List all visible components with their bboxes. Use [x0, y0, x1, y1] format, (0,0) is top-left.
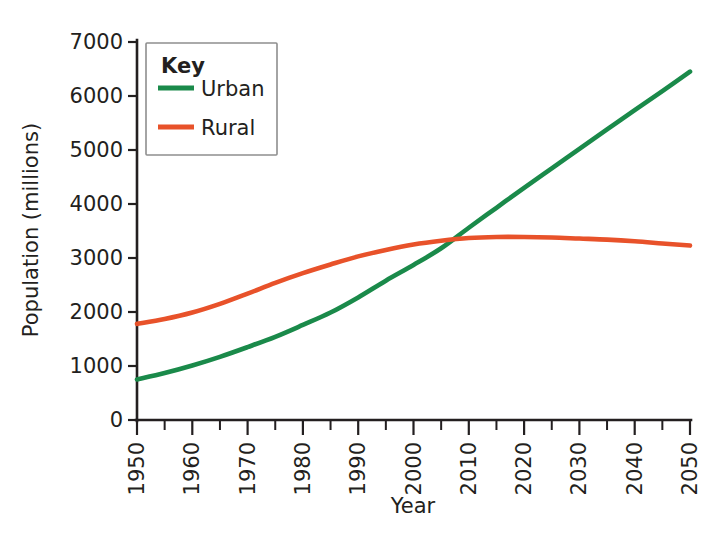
y-tick-marks: [128, 42, 137, 420]
y-tick-label-1000: 1000: [70, 354, 123, 378]
legend-label-rural: Rural: [201, 116, 255, 140]
x-tick-label-1960: 1960: [180, 442, 204, 495]
x-tick-label-2010: 2010: [457, 442, 481, 495]
y-tick-labels: 01000200030004000500060007000: [70, 30, 123, 432]
x-tick-label-2030: 2030: [567, 442, 591, 495]
legend: Key Urban Rural: [146, 43, 277, 155]
x-tick-label-2040: 2040: [623, 442, 647, 495]
y-tick-label-7000: 7000: [70, 30, 123, 54]
x-tick-label-2020: 2020: [512, 442, 536, 495]
legend-label-urban: Urban: [201, 77, 265, 101]
y-tick-label-2000: 2000: [70, 300, 123, 324]
legend-title: Key: [161, 54, 205, 78]
x-axis-title: Year: [390, 494, 436, 518]
y-tick-label-5000: 5000: [70, 138, 123, 162]
x-tick-label-2050: 2050: [678, 442, 702, 495]
y-tick-label-4000: 4000: [70, 192, 123, 216]
line-chart: 01000200030004000500060007000 Population…: [0, 0, 718, 541]
y-axis-group: 01000200030004000500060007000 Population…: [19, 30, 137, 432]
caption-clipped-text: [70, 532, 660, 541]
x-tick-label-1990: 1990: [346, 442, 370, 495]
x-axis-group: 1950196019701980199020002010202020302040…: [125, 420, 702, 518]
x-tick-labels: 1950196019701980199020002010202020302040…: [125, 442, 702, 495]
y-tick-label-6000: 6000: [70, 84, 123, 108]
series-line-rural: [137, 237, 690, 324]
x-tick-label-2000: 2000: [402, 442, 426, 495]
y-tick-label-0: 0: [110, 408, 123, 432]
y-tick-label-3000: 3000: [70, 246, 123, 270]
chart-figure: 01000200030004000500060007000 Population…: [0, 0, 718, 541]
x-tick-label-1950: 1950: [125, 442, 149, 495]
y-axis-title: Population (millions): [19, 123, 43, 337]
x-tick-label-1970: 1970: [236, 442, 260, 495]
x-tick-label-1980: 1980: [291, 442, 315, 495]
